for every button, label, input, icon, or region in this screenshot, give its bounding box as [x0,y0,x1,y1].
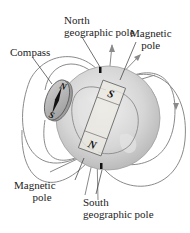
north-geographic-pole-label: North geographic pole [64,14,135,38]
label-line: South [83,196,154,208]
label-line: Magnetic [14,179,56,191]
magnetic-pole-bottom-label: Magnetic pole [14,179,56,203]
compass-label: Compass [10,46,50,58]
label-line: Magnetic [130,27,172,39]
south-geographic-pole-label: South geographic pole [83,196,154,220]
north-geographic-pole-marker [99,67,102,73]
label-line: pole [130,39,172,51]
label-line: pole [14,191,56,203]
label-line: geographic pole [64,26,135,38]
magnetic-pole-top-label: Magnetic pole [130,27,172,51]
label-line: North [64,14,135,26]
label-line: geographic pole [83,208,154,220]
south-geographic-pole-marker [100,163,103,169]
